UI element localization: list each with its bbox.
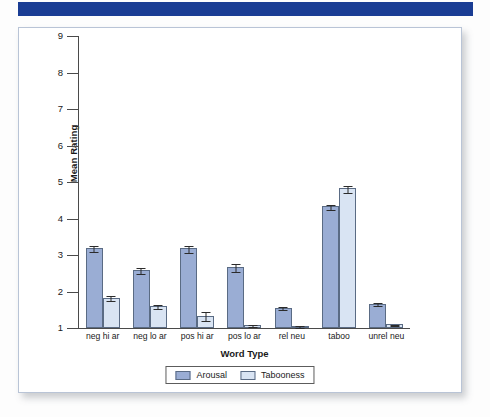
- y-axis-tick-label: 7: [45, 104, 63, 114]
- error-bar: [201, 312, 210, 321]
- bar-tabooness: [150, 306, 167, 328]
- error-bar: [326, 205, 335, 210]
- y-axis-tick-label: 1: [45, 323, 63, 333]
- error-bar-line: [347, 186, 348, 193]
- error-bar-cap-top: [231, 264, 240, 265]
- error-bar-cap-bottom: [390, 326, 399, 327]
- error-bar-cap-bottom: [248, 327, 257, 328]
- error-bar-cap-bottom: [279, 310, 288, 311]
- error-bar-cap-bottom: [107, 301, 116, 302]
- screenshot-root: Mean Rating 123456789 neg hi arneg lo ar…: [0, 0, 490, 417]
- legend-item-arousal[interactable]: Arousal: [175, 370, 227, 380]
- y-axis-tick: [67, 146, 78, 147]
- error-bar-cap-top: [343, 186, 352, 187]
- error-bar: [231, 264, 240, 271]
- y-axis-tick-label: 9: [45, 31, 63, 41]
- error-bar-cap-bottom: [154, 309, 163, 310]
- bar-tabooness: [292, 326, 309, 328]
- bar-arousal: [322, 206, 339, 328]
- bar-tabooness: [197, 316, 214, 328]
- error-bar: [107, 296, 116, 301]
- x-axis-tick-labels: neg hi arneg lo arpos hi arpos lo arrel …: [79, 331, 410, 347]
- y-axis-tick: [67, 219, 78, 220]
- y-axis-tick-label: 8: [45, 68, 63, 78]
- x-axis-tick-label: neg lo ar: [126, 331, 173, 341]
- error-bar-cap-top: [90, 246, 99, 247]
- bar-group: [79, 36, 126, 328]
- x-axis-tick-label: pos lo ar: [221, 331, 268, 341]
- y-axis-tick-label: 3: [45, 250, 63, 260]
- error-bar-cap-bottom: [373, 306, 382, 307]
- error-bar-cap-bottom: [90, 252, 99, 253]
- y-axis-tick: [67, 255, 78, 256]
- error-bar: [137, 268, 146, 274]
- y-axis-tick: [67, 182, 78, 183]
- legend-item-tabooness[interactable]: Tabooness: [240, 370, 305, 380]
- error-bar: [279, 307, 288, 310]
- bar-arousal: [227, 267, 244, 328]
- error-bar: [390, 325, 399, 326]
- bar-group: [221, 36, 268, 328]
- x-axis-title: Word Type: [79, 348, 410, 359]
- error-bar-cap-bottom: [326, 210, 335, 211]
- bar-arousal: [275, 308, 292, 328]
- bar-tabooness: [386, 324, 403, 328]
- error-bar-cap-bottom: [343, 193, 352, 194]
- error-bar: [184, 246, 193, 253]
- bar-arousal: [86, 248, 103, 328]
- bar-group: [174, 36, 221, 328]
- x-axis-tick-label: taboo: [315, 331, 362, 341]
- y-axis-tick: [67, 73, 78, 74]
- error-bar-cap-top: [137, 268, 146, 269]
- x-axis-tick-label: rel neu: [268, 331, 315, 341]
- x-axis-tick-label: pos hi ar: [174, 331, 221, 341]
- error-bar: [90, 246, 99, 252]
- bar-group: [363, 36, 410, 328]
- legend-swatch-arousal: [175, 371, 190, 380]
- x-axis-tick-label: unrel neu: [363, 331, 410, 341]
- error-bar-line: [188, 246, 189, 253]
- x-axis-tick-label: neg hi ar: [79, 331, 126, 341]
- y-axis-tick: [67, 328, 78, 329]
- error-bar-cap-top: [279, 307, 288, 308]
- bar-arousal: [369, 304, 386, 328]
- error-bar-cap-top: [107, 296, 116, 297]
- error-bar-cap-top: [326, 205, 335, 206]
- chart-legend: ArousalTabooness: [165, 366, 314, 384]
- error-bar-cap-bottom: [231, 272, 240, 273]
- error-bar: [154, 305, 163, 309]
- bar-group: [268, 36, 315, 328]
- error-bar-cap-bottom: [184, 253, 193, 254]
- error-bar-line: [205, 312, 206, 321]
- bar-tabooness: [339, 188, 356, 328]
- legend-label: Arousal: [196, 370, 227, 380]
- chart-plot-area: Mean Rating 123456789 neg hi arneg lo ar…: [19, 28, 461, 392]
- x-axis-line: [78, 328, 410, 329]
- bar-arousal: [180, 248, 197, 328]
- error-bar: [343, 186, 352, 193]
- y-axis-tick: [67, 292, 78, 293]
- legend-swatch-tabooness: [240, 371, 255, 380]
- y-axis-tick-label: 5: [45, 177, 63, 187]
- y-axis-title: Mean Rating: [68, 94, 79, 214]
- y-axis-tick: [67, 36, 78, 37]
- y-axis-tick: [67, 109, 78, 110]
- error-bar-cap-top: [201, 312, 210, 313]
- y-axis-tick-label: 2: [45, 287, 63, 297]
- bar-group: [315, 36, 362, 328]
- error-bar: [296, 326, 305, 327]
- error-bar: [248, 325, 257, 326]
- error-bar-cap-bottom: [296, 328, 305, 329]
- bar-arousal: [133, 270, 150, 328]
- bar-tabooness: [244, 325, 261, 328]
- bar-group: [126, 36, 173, 328]
- y-axis-tick-label: 4: [45, 214, 63, 224]
- error-bar-cap-bottom: [137, 274, 146, 275]
- bar-tabooness: [103, 298, 120, 328]
- legend-label: Tabooness: [261, 370, 305, 380]
- error-bar-cap-bottom: [201, 321, 210, 322]
- error-bar-cap-top: [184, 246, 193, 247]
- error-bar-line: [235, 264, 236, 271]
- error-bar-cap-top: [373, 303, 382, 304]
- y-axis-tick-label: 6: [45, 141, 63, 151]
